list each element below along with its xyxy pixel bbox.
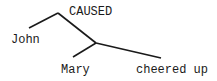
node-cheered-up: cheered up: [136, 64, 208, 76]
node-mary: Mary: [61, 64, 90, 76]
edge-root-john: [29, 13, 58, 28]
edge-junction-mary: [73, 43, 96, 57]
node-john: John: [11, 34, 40, 46]
edge-junction-cheered: [96, 43, 161, 58]
node-caused: CAUSED: [69, 6, 112, 18]
